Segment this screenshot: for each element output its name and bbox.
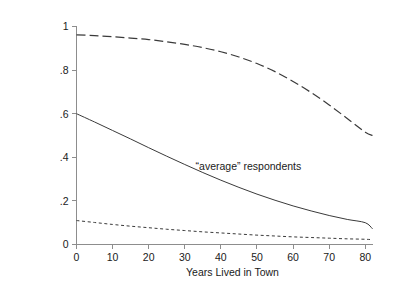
- chart-figure: 0.2.4.6.81 01020304050607080 “average” r…: [0, 0, 399, 292]
- chart-series-group: [77, 35, 373, 240]
- series-line-0: [77, 35, 373, 136]
- x-tick-label: 30: [179, 251, 191, 263]
- y-axis: 0.2.4.6.81: [60, 20, 77, 250]
- x-axis-title: Years Lived in Town: [186, 266, 279, 278]
- x-tick-label: 70: [323, 251, 335, 263]
- x-tick-label: 50: [251, 251, 263, 263]
- chart-plot-area: 0.2.4.6.81 01020304050607080 “average” r…: [0, 0, 399, 292]
- x-tick-label: 80: [359, 251, 371, 263]
- y-axis-ticks: [72, 27, 77, 245]
- x-tick-label: 60: [287, 251, 299, 263]
- x-tick-label: 20: [143, 251, 155, 263]
- y-tick-label: .4: [60, 151, 69, 163]
- x-axis-title-group: Years Lived in Town: [186, 266, 279, 278]
- y-tick-label: .6: [60, 108, 69, 120]
- x-tick-label: 40: [215, 251, 227, 263]
- x-tick-label: 10: [107, 251, 119, 263]
- average-respondents-label: “average” respondents: [196, 160, 302, 172]
- y-tick-label: .8: [60, 64, 69, 76]
- y-tick-label: 0: [63, 238, 69, 250]
- y-tick-label: 1: [63, 20, 69, 32]
- y-tick-label: .2: [60, 195, 69, 207]
- series-line-2: [77, 221, 373, 240]
- x-tick-label: 0: [74, 251, 80, 263]
- x-axis-ticks: [77, 245, 366, 250]
- x-axis-tick-labels: 01020304050607080: [74, 251, 372, 263]
- chart-annotations: “average” respondents: [196, 160, 302, 172]
- x-axis: 01020304050607080: [74, 245, 373, 263]
- y-axis-tick-labels: 0.2.4.6.81: [60, 20, 69, 250]
